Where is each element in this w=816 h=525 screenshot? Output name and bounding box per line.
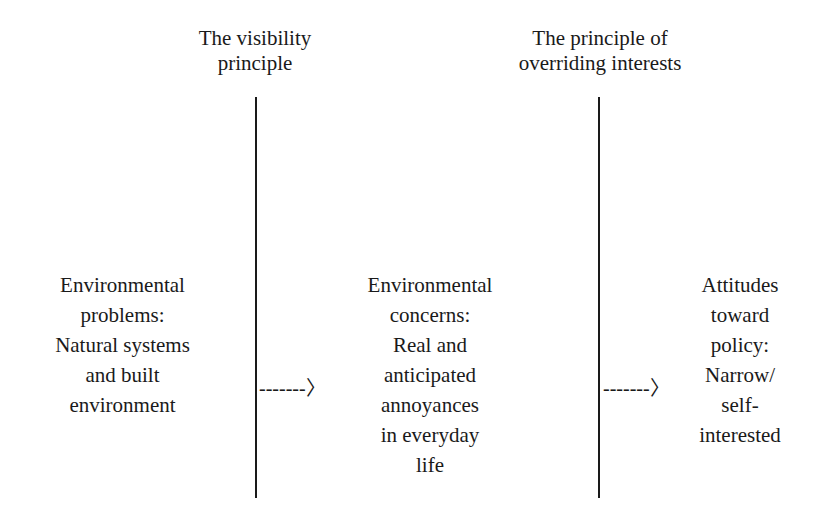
header-visibility-principle: The visibility principle: [150, 26, 360, 76]
box-line: self-: [660, 390, 816, 420]
header-overriding-interests: The principle of overriding interests: [480, 26, 720, 76]
box-line: environment: [0, 390, 245, 420]
box-line: problems:: [0, 300, 245, 330]
box-line: interested: [660, 420, 816, 450]
box-line: concerns:: [330, 300, 530, 330]
box-line: annoyances: [330, 390, 530, 420]
dashed-arrow-1: -------〉: [259, 376, 326, 400]
box-attitudes-toward-policy: Attitudes toward policy: Narrow/ self- i…: [660, 270, 816, 450]
header-line: The visibility: [150, 26, 360, 51]
box-line: in everyday: [330, 420, 530, 450]
box-line: Environmental: [330, 270, 530, 300]
box-line: Environmental: [0, 270, 245, 300]
box-line: toward: [660, 300, 816, 330]
box-environmental-concerns: Environmental concerns: Real and anticip…: [330, 270, 530, 480]
box-line: Narrow/: [660, 360, 816, 390]
box-line: Real and: [330, 330, 530, 360]
box-line: and built: [0, 360, 245, 390]
box-line: anticipated: [330, 360, 530, 390]
box-line: life: [330, 450, 530, 480]
header-line: principle: [150, 51, 360, 76]
divider-line-visibility: [255, 97, 257, 498]
header-line: overriding interests: [480, 51, 720, 76]
box-environmental-problems: Environmental problems: Natural systems …: [0, 270, 245, 420]
header-line: The principle of: [480, 26, 720, 51]
divider-line-overriding: [598, 97, 600, 498]
box-line: policy:: [660, 330, 816, 360]
box-line: Attitudes: [660, 270, 816, 300]
box-line: Natural systems: [0, 330, 245, 360]
